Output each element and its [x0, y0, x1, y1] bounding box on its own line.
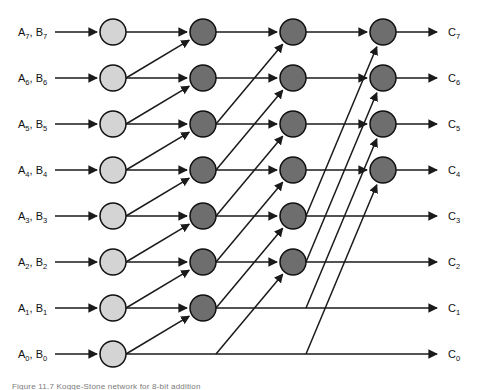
prefix-operator-node-bit-7-stage-2 — [190, 19, 216, 45]
input-label-bit-1: A1, B1 — [18, 302, 47, 317]
prefix-operator-node-bit-5-stage-4 — [370, 111, 396, 137]
diagonal-edge-s4-1-to-5 — [306, 139, 377, 308]
input-node-bit-0-stage-1 — [100, 341, 126, 367]
prefix-operator-node-bit-5-stage-3 — [280, 111, 306, 137]
output-label-bit-3: C3 — [448, 210, 460, 225]
diagonal-edge-s2-6-to-7 — [126, 40, 189, 78]
input-node-bit-5-stage-1 — [100, 111, 126, 137]
prefix-operator-node-bit-6-stage-2 — [190, 65, 216, 91]
prefix-operator-node-bit-6-stage-3 — [280, 65, 306, 91]
output-label-bit-2: C2 — [448, 256, 460, 271]
diagonal-edge-s4-0-to-4 — [306, 185, 377, 354]
input-label-bit-7: A7, B7 — [18, 26, 47, 41]
figure-caption: Figure 11.7 Kogge-Stone network for 8-bi… — [12, 381, 201, 390]
diagonal-edge-s2-0-to-1 — [126, 316, 189, 354]
input-node-bit-1-stage-1 — [100, 295, 126, 321]
input-label-bit-3: A3, B3 — [18, 210, 47, 225]
input-label-bit-5: A5, B5 — [18, 118, 47, 133]
input-label-bit-4: A4, B4 — [18, 164, 47, 179]
diagonal-edge-s2-3-to-4 — [126, 178, 189, 216]
prefix-operator-node-bit-5-stage-2 — [190, 111, 216, 137]
diagonal-edge-s3-4-to-6 — [216, 90, 283, 170]
input-node-bit-4-stage-1 — [100, 157, 126, 183]
diagonal-edge-s2-2-to-3 — [126, 224, 189, 262]
output-label-bit-7: C7 — [448, 26, 460, 41]
diagonal-edge-s2-5-to-6 — [126, 86, 189, 124]
prefix-operator-node-bit-7-stage-4 — [370, 19, 396, 45]
input-label-bit-6: A6, B6 — [18, 72, 47, 87]
output-label-bit-5: C5 — [448, 118, 460, 133]
prefix-operator-node-bit-2-stage-3 — [280, 249, 306, 275]
prefix-operator-node-bit-1-stage-2 — [190, 295, 216, 321]
diagonal-edge-s3-5-to-7 — [216, 44, 283, 124]
input-node-bit-2-stage-1 — [100, 249, 126, 275]
output-label-bit-0: C0 — [448, 348, 460, 363]
prefix-operator-node-bit-6-stage-4 — [370, 65, 396, 91]
prefix-operator-node-bit-3-stage-2 — [190, 203, 216, 229]
diagonal-edge-s4-2-to-6 — [306, 93, 377, 262]
output-label-bit-4: C4 — [448, 164, 460, 179]
prefix-operator-node-bit-3-stage-3 — [280, 203, 306, 229]
output-label-bit-6: C6 — [448, 72, 460, 87]
diagonal-edge-s2-1-to-2 — [126, 270, 189, 308]
input-label-bit-0: A0, B0 — [18, 348, 47, 363]
input-node-bit-7-stage-1 — [100, 19, 126, 45]
diagonal-edge-s3-2-to-4 — [216, 182, 283, 262]
prefix-operator-node-bit-4-stage-4 — [370, 157, 396, 183]
input-node-bit-6-stage-1 — [100, 65, 126, 91]
prefix-operator-node-bit-4-stage-2 — [190, 157, 216, 183]
diagonal-edge-s3-1-to-3 — [216, 228, 283, 308]
diagonal-edge-s4-3-to-7 — [306, 47, 377, 216]
diagonal-edge-s3-0-to-2 — [216, 274, 283, 354]
diagonal-edge-s3-3-to-5 — [216, 136, 283, 216]
diagonal-edge-s2-4-to-5 — [126, 132, 189, 170]
prefix-operator-node-bit-4-stage-3 — [280, 157, 306, 183]
input-label-bit-2: A2, B2 — [18, 256, 47, 271]
input-node-bit-3-stage-1 — [100, 203, 126, 229]
output-label-bit-1: C1 — [448, 302, 460, 317]
prefix-operator-node-bit-7-stage-3 — [280, 19, 306, 45]
prefix-operator-node-bit-2-stage-2 — [190, 249, 216, 275]
